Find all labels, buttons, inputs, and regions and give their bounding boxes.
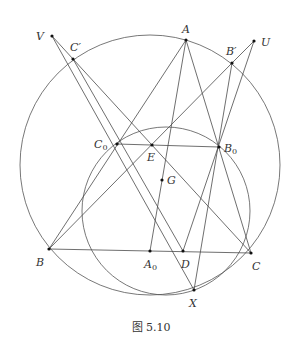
label-G: G bbox=[167, 174, 176, 187]
point-C0 bbox=[115, 142, 118, 145]
label-X: X bbox=[188, 297, 198, 310]
point-E bbox=[150, 143, 153, 146]
point-C bbox=[249, 251, 252, 254]
point-X bbox=[192, 288, 195, 291]
label-A0: A0 bbox=[143, 258, 157, 272]
label-C0: C0 bbox=[94, 138, 108, 152]
label-V: V bbox=[36, 30, 45, 43]
point-U bbox=[252, 39, 255, 42]
circles bbox=[20, 35, 280, 295]
point-labels: ABCA0B0C0DEGXUVB′C′ bbox=[35, 23, 271, 310]
label-B0: B0 bbox=[223, 142, 237, 156]
figure-caption: 图 5.10 bbox=[132, 321, 171, 334]
point-G bbox=[160, 178, 163, 181]
point-A bbox=[184, 38, 187, 41]
point-B bbox=[47, 247, 50, 250]
point-Bp bbox=[230, 61, 233, 64]
label-U: U bbox=[261, 36, 271, 49]
segment-V-X bbox=[52, 36, 194, 290]
segment-Cp-C bbox=[73, 59, 251, 253]
point-Cp bbox=[71, 57, 74, 60]
circumcircle bbox=[20, 35, 280, 295]
point-V bbox=[50, 34, 53, 37]
label-C: C bbox=[252, 260, 261, 273]
point-B0 bbox=[217, 145, 220, 148]
segment-B-Bp bbox=[49, 63, 232, 249]
label-B: B bbox=[35, 256, 44, 269]
label-D: D bbox=[180, 258, 190, 271]
label-Bp: B′ bbox=[225, 45, 237, 58]
label-Cp: C′ bbox=[70, 41, 81, 54]
geometry-figure: ABCA0B0C0DEGXUVB′C′ 图 5.10 bbox=[0, 0, 298, 341]
point-D bbox=[181, 249, 184, 252]
segment-Bp-X bbox=[194, 63, 232, 290]
point-A0 bbox=[148, 249, 151, 252]
label-A: A bbox=[181, 23, 190, 36]
label-E: E bbox=[146, 151, 155, 164]
